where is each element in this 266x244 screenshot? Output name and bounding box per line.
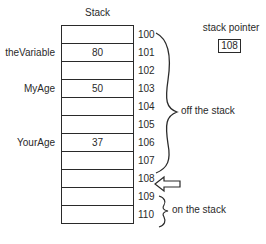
on-the-stack-brace-icon — [159, 196, 168, 227]
stack-pointer-arrow-icon — [155, 177, 180, 191]
diagram-overlay — [0, 0, 266, 244]
off-the-stack-brace-icon — [156, 33, 177, 173]
